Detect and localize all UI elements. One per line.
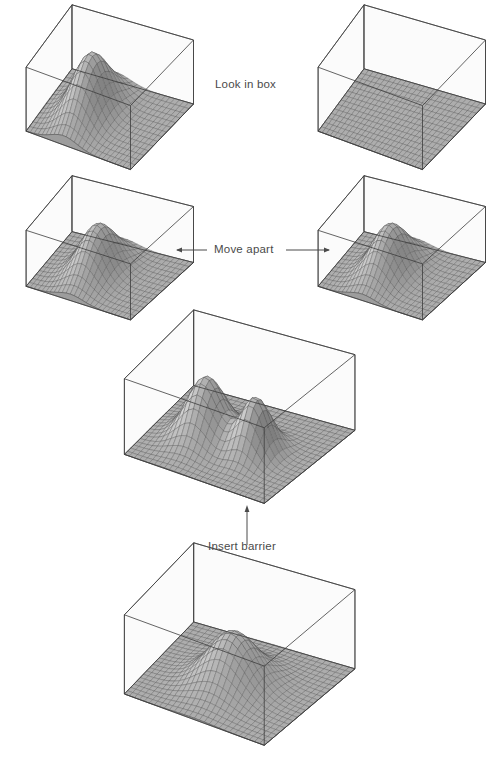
panel-box-bottom [108, 568, 360, 748]
wide-box-with-two-wavefunctions [108, 334, 360, 506]
panel-box-top-right [310, 12, 490, 172]
wide-box-with-merged-wavefunction [108, 568, 360, 748]
caption-insert-barrier: Insert barrier [208, 540, 276, 552]
caption-move-apart: Move apart [214, 243, 274, 255]
box-with-wavefunction-mid-right [310, 182, 490, 322]
caption-look-in-box: Look in box [215, 78, 276, 90]
box-with-wavefunction-mid-left [18, 182, 198, 322]
panel-box-mid-right [310, 182, 490, 322]
panel-box-mid-left [18, 182, 198, 322]
panel-box-center [108, 334, 360, 506]
wavefunction-figure: Look in box Move apart Insert barrier [0, 0, 494, 757]
panel-box-top-left [18, 12, 198, 172]
arrow-up-icon [245, 505, 250, 545]
box-with-wavefunction-top-left [18, 12, 198, 172]
empty-box-top-right [310, 12, 490, 172]
